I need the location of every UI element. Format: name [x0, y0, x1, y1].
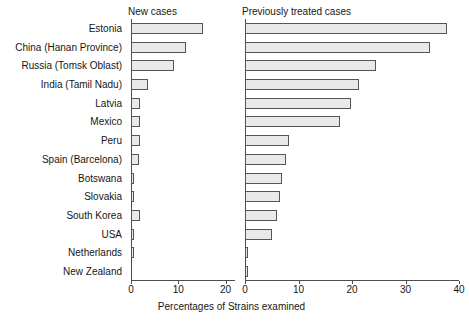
bar — [131, 135, 140, 146]
category-label: Spain (Barcelona) — [0, 154, 122, 165]
x-axis-label: Percentages of Strains examined — [0, 301, 463, 313]
x-axis-tick-label: 0 — [119, 284, 143, 295]
plot-panel-previously-treated-cases — [245, 19, 459, 281]
category-label: Russia (Tomsk Oblast) — [0, 60, 122, 71]
bar — [245, 266, 248, 277]
bar — [245, 154, 286, 165]
bar — [131, 42, 186, 53]
bar — [245, 116, 340, 127]
panel-title-previously-treated-cases: Previously treated cases — [242, 6, 351, 18]
bar — [245, 42, 430, 53]
category-label: Mexico — [0, 116, 122, 127]
x-axis-line-left — [131, 280, 235, 281]
plot-panel-new-cases — [131, 19, 235, 281]
category-label: Peru — [0, 135, 122, 146]
bar — [245, 229, 272, 240]
category-label: South Korea — [0, 210, 122, 221]
category-label: USA — [0, 229, 122, 240]
bar — [131, 247, 134, 258]
bar — [131, 154, 139, 165]
bar — [245, 210, 277, 221]
category-label: New Zealand — [0, 266, 122, 277]
bar — [245, 135, 289, 146]
bar — [245, 173, 282, 184]
x-axis-tick-label: 20 — [340, 284, 364, 295]
category-label: Botswana — [0, 173, 122, 184]
bar — [131, 98, 140, 109]
bar — [245, 247, 248, 258]
bar — [245, 23, 447, 34]
category-label: Slovakia — [0, 191, 122, 202]
bar — [131, 116, 140, 127]
bar — [245, 60, 376, 71]
category-axis: EstoniaChina (Hanan Province)Russia (Tom… — [0, 19, 126, 281]
x-axis-tick-label: 30 — [394, 284, 418, 295]
category-label: China (Hanan Province) — [0, 42, 122, 53]
bar — [245, 191, 280, 202]
x-axis-tick-label: 0 — [233, 284, 257, 295]
x-axis-tick-label: 10 — [166, 284, 190, 295]
y-axis-line-right — [245, 19, 246, 281]
bar — [245, 98, 351, 109]
category-label: India (Tamil Nadu) — [0, 79, 122, 90]
bar — [131, 191, 134, 202]
category-label: Latvia — [0, 98, 122, 109]
category-label: Netherlands — [0, 247, 122, 258]
bar — [131, 229, 134, 240]
bar — [131, 79, 148, 90]
bar — [131, 60, 174, 71]
panel-title-new-cases: New cases — [128, 6, 177, 18]
category-label: Estonia — [0, 23, 122, 34]
bar — [245, 79, 359, 90]
bar — [131, 210, 140, 221]
y-axis-line-left — [131, 19, 132, 281]
x-axis-tick-label: 40 — [447, 284, 469, 295]
bar — [131, 173, 134, 184]
bar — [131, 23, 203, 34]
x-axis-tick-label: 10 — [287, 284, 311, 295]
